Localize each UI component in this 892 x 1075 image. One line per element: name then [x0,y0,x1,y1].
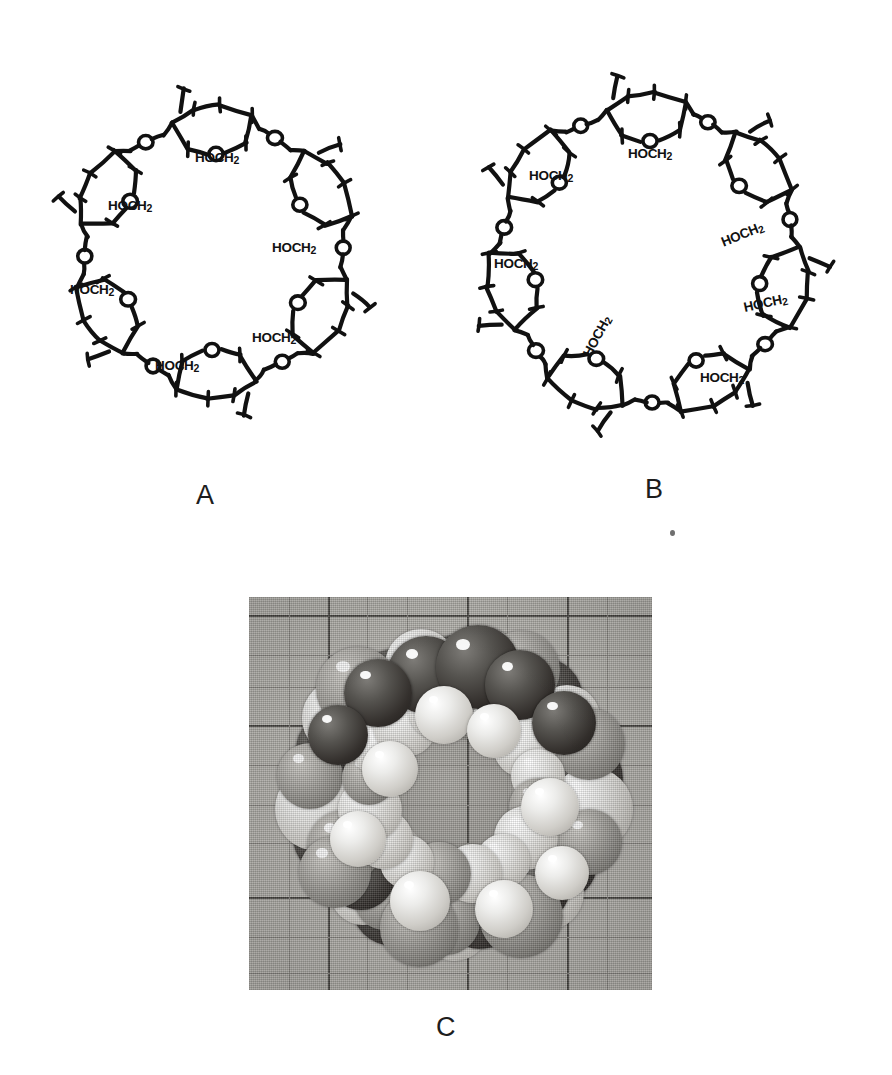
specular-highlight [547,702,557,710]
hoch2-label: HOCH2 [529,168,573,184]
specular-highlight [510,817,520,825]
panel-label-c: C [436,1014,456,1041]
hoch2-label: HOCH2 [494,256,538,272]
hoch2-label: HOCH2 [70,282,114,298]
specular-highlight [404,881,414,889]
specular-highlight [489,890,498,898]
specular-highlight [316,848,328,857]
model-atom-sphere [362,741,418,797]
printing-speck [670,530,675,536]
specular-highlight [548,855,557,862]
specular-highlight [480,713,489,720]
model-atom-sphere [521,778,579,836]
hoch2-label: HOCH2 [628,146,672,162]
graph-paper-grid-line [249,615,652,617]
panel-label-b: B [645,476,663,503]
specular-highlight [336,661,349,672]
specular-highlight [429,696,438,704]
specular-highlight [293,754,304,763]
photograph-frame [249,597,652,990]
model-atom-sphere [415,686,473,744]
model-atom-sphere [390,871,450,931]
panel-c-space-filling-model-photo [249,597,652,990]
specular-highlight [322,715,332,723]
model-atom-sphere [467,704,521,758]
hoch2-label: HOCH2 [108,198,152,214]
model-atom-sphere [330,811,386,867]
specular-highlight [406,649,418,659]
figure-canvas: A B C HOCH2HOCH2HOCH2HOCH2HOCH2HOCH2HOCH… [0,0,892,1075]
hoch2-label: HOCH2 [155,358,199,374]
hoch2-label: HOCH2 [700,370,744,386]
panel-label-a: A [196,482,214,509]
specular-highlight [524,758,533,765]
specular-highlight [343,821,352,828]
alpha-cyclodextrin-skeleton [18,44,418,464]
model-atom-sphere [535,846,589,900]
model-atom-sphere [532,691,596,755]
model-atom-sphere [308,705,368,765]
hoch2-label: HOCH2 [272,240,316,256]
specular-highlight [456,639,469,650]
specular-highlight [375,751,384,758]
hoch2-label: HOCH2 [195,150,239,166]
specular-highlight [502,662,513,671]
model-atom-sphere [475,880,533,938]
hoch2-label: HOCH2 [252,330,296,346]
panel-a-alpha-cyclodextrin [18,44,418,464]
specular-highlight [535,788,544,796]
specular-highlight [360,671,371,680]
graph-paper-grid-line [249,973,652,974]
